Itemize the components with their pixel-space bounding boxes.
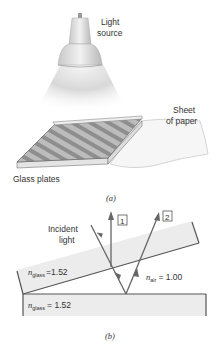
lamp-icon bbox=[58, 13, 102, 67]
incident-label-1: Incident bbox=[48, 224, 78, 234]
light-beam bbox=[38, 62, 125, 113]
part-a: Light source Sheet of paper Glass plates… bbox=[13, 13, 208, 203]
air-index: nair= 1.00 bbox=[146, 272, 183, 283]
incident-label-2: light bbox=[59, 235, 75, 245]
ray2-label: 2 bbox=[165, 213, 170, 222]
glass-plates-label: Glass plates bbox=[13, 174, 60, 184]
part-b: Incident light 1 2 nglass=1.52 nair= 1.0… bbox=[17, 211, 206, 341]
arrow-incident-lower-icon bbox=[114, 272, 121, 280]
caption-b: (b) bbox=[105, 331, 115, 341]
light-source-label-2: source bbox=[97, 28, 123, 38]
light-source-label-1: Light bbox=[101, 17, 120, 27]
arrow-ray1-icon bbox=[108, 211, 114, 220]
ray1-label: 1 bbox=[120, 217, 125, 226]
caption-a: (a) bbox=[106, 193, 116, 203]
figure-canvas: Light source Sheet of paper Glass plates… bbox=[0, 0, 224, 355]
paper-label-1: Sheet bbox=[173, 105, 196, 115]
paper-label-2: of paper bbox=[166, 116, 197, 126]
arrow-ray2-icon bbox=[154, 212, 160, 221]
